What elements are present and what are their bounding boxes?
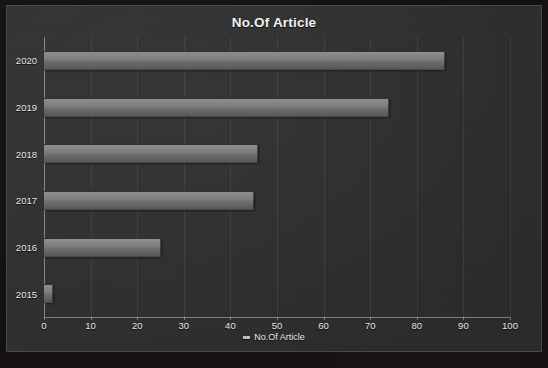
legend-label: No.Of Article	[254, 332, 305, 342]
gridline	[510, 37, 511, 317]
x-axis-tick	[277, 317, 278, 320]
bar-row	[44, 191, 510, 210]
bar-row	[44, 51, 510, 70]
y-axis-label-2018: 2018	[16, 148, 37, 159]
legend-marker-icon	[243, 336, 250, 339]
chart-title: No.Of Article	[7, 15, 541, 30]
bar-2018[interactable]	[44, 144, 258, 163]
chart-screenshot: No.Of Article 201520162017201820192020 0…	[0, 0, 548, 368]
x-axis-tick	[370, 317, 371, 320]
bar-2019[interactable]	[44, 98, 389, 117]
bar-row	[44, 284, 510, 303]
x-axis-tick-label: 60	[318, 320, 329, 331]
bar-row	[44, 98, 510, 117]
bar-2016[interactable]	[44, 238, 161, 257]
bar-row	[44, 144, 510, 163]
x-axis-tick	[417, 317, 418, 320]
chart-legend: No.Of Article	[7, 332, 541, 342]
x-axis-tick-label: 40	[225, 320, 236, 331]
x-axis-tick-label: 20	[132, 320, 143, 331]
bar-2020[interactable]	[44, 51, 445, 70]
y-axis-label-2017: 2017	[16, 195, 37, 206]
x-axis-tick-label: 90	[458, 320, 469, 331]
bar-series	[44, 37, 510, 317]
x-axis-tick-label: 0	[41, 320, 46, 331]
plot-area	[44, 37, 510, 317]
x-axis-tick	[510, 317, 511, 320]
x-axis-tick	[91, 317, 92, 320]
x-axis-tick-label: 30	[179, 320, 190, 331]
x-axis-tick-label: 100	[502, 320, 518, 331]
x-axis-tick	[324, 317, 325, 320]
x-axis-tick-label: 50	[272, 320, 283, 331]
bar-2017[interactable]	[44, 191, 254, 210]
x-axis-tick-label: 10	[85, 320, 96, 331]
x-axis-tick	[137, 317, 138, 320]
bar-row	[44, 238, 510, 257]
y-axis-label-2015: 2015	[16, 288, 37, 299]
x-axis-tick-label: 80	[412, 320, 423, 331]
x-axis-tick	[184, 317, 185, 320]
y-axis-labels: 201520162017201820192020	[7, 37, 41, 317]
x-axis-tick	[463, 317, 464, 320]
x-axis-tick	[44, 317, 45, 320]
bar-2015[interactable]	[44, 284, 53, 303]
y-axis-label-2016: 2016	[16, 242, 37, 253]
y-axis-label-2019: 2019	[16, 102, 37, 113]
chart-container: No.Of Article 201520162017201820192020 0…	[6, 5, 542, 352]
y-axis-label-2020: 2020	[16, 55, 37, 66]
x-axis-tick	[230, 317, 231, 320]
x-axis-tick-label: 70	[365, 320, 376, 331]
